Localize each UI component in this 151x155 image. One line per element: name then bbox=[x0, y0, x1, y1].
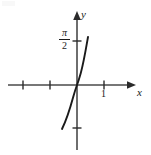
x-axis-arrowhead bbox=[127, 81, 136, 89]
y-tick-label-pi-over-2: π 2 bbox=[56, 28, 73, 51]
x-tick-label-1: 1 bbox=[101, 89, 106, 99]
y-axis-arrowhead bbox=[73, 11, 81, 20]
y-axis-label: y bbox=[81, 9, 86, 20]
denominator-two: 2 bbox=[56, 40, 73, 51]
x-axis-label: x bbox=[137, 87, 142, 98]
graph-canvas bbox=[0, 0, 151, 155]
pi-symbol: π bbox=[56, 28, 73, 39]
math-figure: y x 1 π 2 bbox=[0, 0, 151, 155]
